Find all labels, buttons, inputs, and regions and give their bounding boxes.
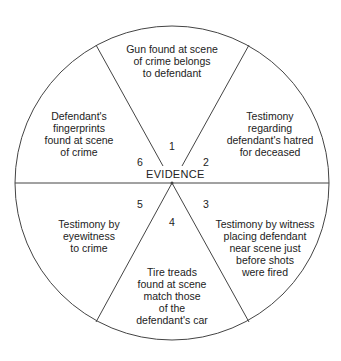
segment-5-text: Testimony by eyewitness to crime — [46, 218, 132, 254]
segment-5-number: 5 — [137, 198, 143, 210]
segment-3-text: Testimony by witness placing defendant n… — [203, 218, 327, 278]
segment-1-number: 1 — [169, 140, 175, 152]
segment-6-number: 6 — [137, 156, 143, 168]
segment-1-text: Gun found at scene of crime belongs to d… — [116, 43, 228, 79]
segment-4-number: 4 — [169, 216, 175, 228]
segment-4-text: Tire treads found at scene match those o… — [127, 266, 217, 326]
center-label: EVIDENCE — [146, 168, 205, 180]
segment-2-text: Testimony regarding defendant's hatred f… — [210, 110, 330, 158]
center-dot — [171, 182, 174, 185]
segment-6-text: Defendant's fingerprints found at scene … — [34, 110, 124, 158]
segment-2-number: 2 — [203, 156, 209, 168]
segment-3-number: 3 — [203, 198, 209, 210]
